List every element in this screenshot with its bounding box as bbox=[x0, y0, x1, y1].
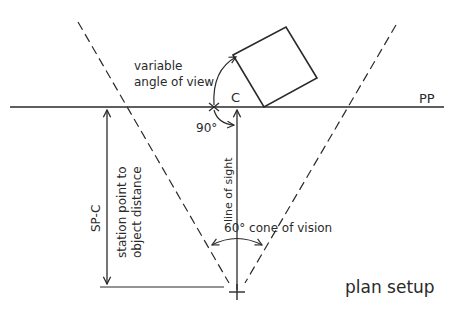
variable-angle-label-2: angle of view bbox=[134, 75, 214, 89]
object-square bbox=[233, 27, 317, 107]
variable-angle-label-1: variable bbox=[134, 59, 182, 73]
line-of-sight-label: line of sight bbox=[222, 157, 235, 222]
center-of-vision-label: C bbox=[231, 90, 240, 105]
right-angle-label: 90° bbox=[196, 121, 217, 135]
station-point-label-1: station point to bbox=[115, 166, 129, 258]
diagram-title: plan setup bbox=[345, 277, 435, 297]
plan-setup-diagram: PP line of sight C variable angle of vie… bbox=[0, 0, 461, 313]
sp-c-label: SP-C bbox=[89, 205, 103, 232]
picture-plane-label: PP bbox=[419, 91, 435, 106]
cone-of-vision-label: 60° cone of vision bbox=[224, 221, 332, 235]
station-point-label-2: object distance bbox=[130, 166, 144, 258]
cone-right-edge bbox=[245, 25, 396, 283]
